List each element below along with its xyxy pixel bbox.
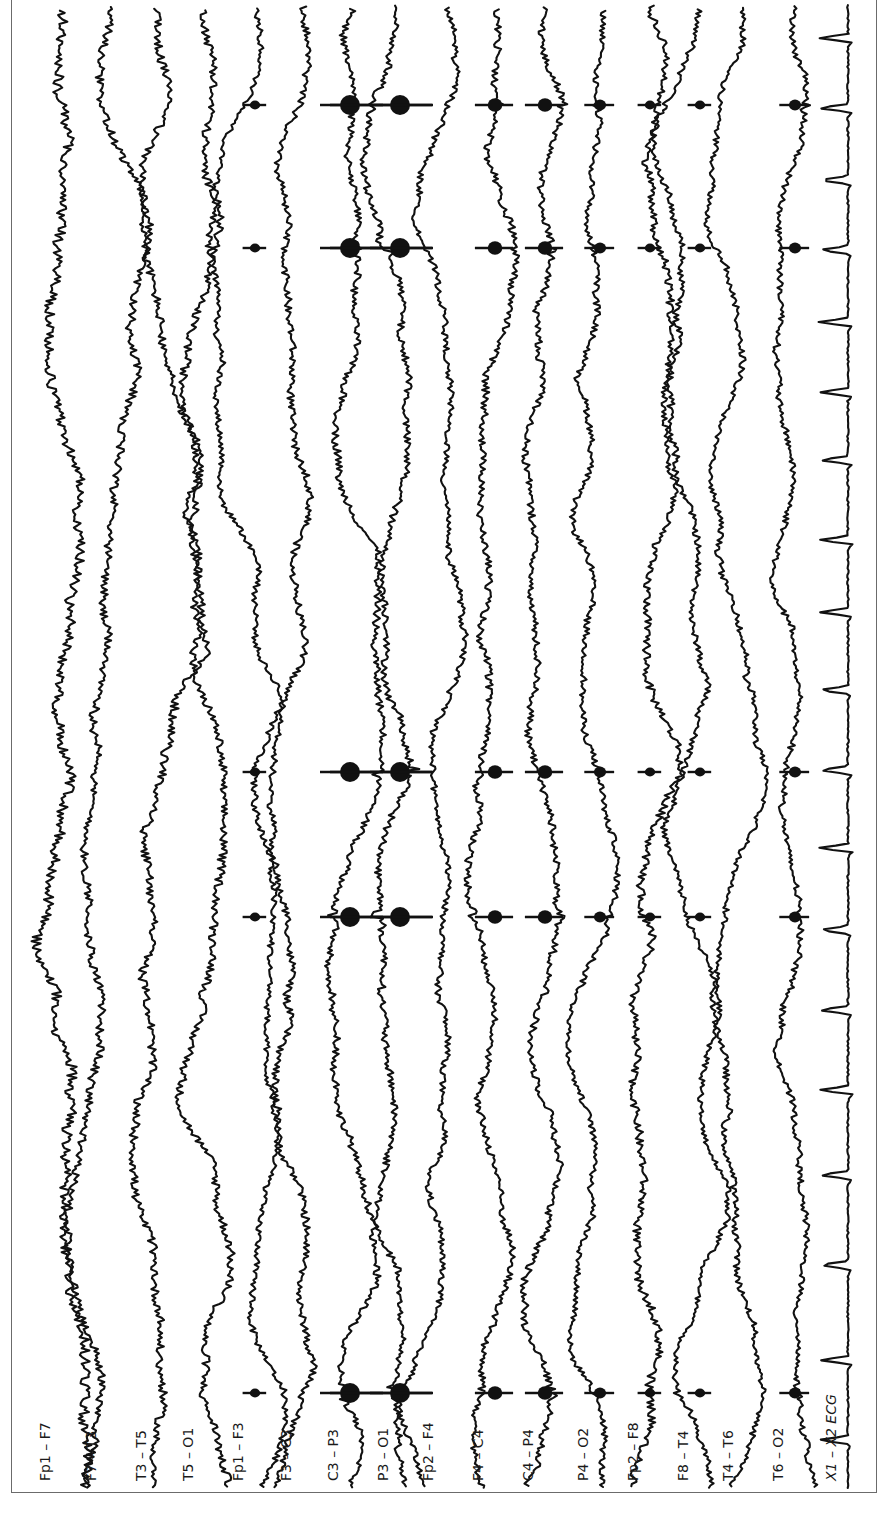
channel-label: Fp1 – F3 (230, 1422, 246, 1481)
eeg-trace (32, 11, 93, 1487)
spike-burst-core (695, 101, 705, 110)
spike-burst-core (695, 244, 705, 253)
spike-burst-core (789, 912, 801, 923)
eeg-channel: T4 – T6 (705, 8, 769, 1486)
eeg-channel: F8 – T4 (651, 9, 730, 1487)
spike-burst-core (789, 767, 801, 778)
eeg-channel: F4 – C4 (465, 9, 519, 1487)
spike-burst-core (789, 1388, 801, 1399)
spike-burst-core (695, 1389, 705, 1398)
channel-label: T4 – T6 (720, 1430, 736, 1482)
spike-burst-core (594, 912, 606, 923)
eeg-trace (465, 9, 519, 1487)
spike-burst-core (695, 913, 705, 922)
eeg-trace (705, 8, 769, 1486)
channel-label: P3 – O1 (375, 1428, 391, 1481)
spike-burst-core (250, 1389, 260, 1398)
spike-burst-core (695, 768, 705, 777)
spike-burst-core (645, 913, 655, 922)
eeg-trace (60, 7, 152, 1488)
spike-burst-core (789, 100, 801, 111)
eeg-channel: F7 – T3 (60, 7, 152, 1488)
spike-burst-core (250, 913, 260, 922)
spike-burst-core (594, 100, 606, 111)
spike-burst-core (594, 243, 606, 254)
spike-burst-core (645, 768, 655, 777)
eeg-trace (566, 11, 620, 1487)
spike-burst-core (488, 1386, 503, 1400)
channel-label: X1 – X2 ECG (823, 1394, 839, 1482)
channel-label: F3 – C3 (278, 1429, 294, 1481)
spike-burst-core (538, 910, 553, 924)
eeg-trace (251, 7, 316, 1488)
channel-label: Fp1 – F7 (37, 1422, 53, 1481)
eeg-trace (629, 6, 682, 1487)
eeg-trace (325, 9, 386, 1487)
channel-label: T3 – T5 (133, 1430, 149, 1482)
eeg-channel: P3 – O1 (361, 6, 433, 1487)
channel-label: F4 – C4 (470, 1429, 486, 1481)
eeg-channel: C3 – P3 (320, 9, 386, 1487)
eeg-traces: Fp1 – F7F7 – T3T3 – T5T5 – O1Fp1 – F3F3 … (0, 0, 893, 1540)
spike-burst-core (488, 241, 503, 255)
eeg-channel: X1 – X2 ECG (819, 5, 853, 1488)
channel-label: T5 – O1 (180, 1428, 196, 1482)
spike-burst-core (538, 98, 553, 112)
spike-burst-core (250, 101, 260, 110)
spike-burst-core (538, 1386, 553, 1400)
eeg-channel: T6 – O2 (770, 6, 817, 1487)
spike-burst-core (488, 98, 503, 112)
channel-label: P4 – O2 (575, 1428, 591, 1481)
channel-label: T6 – O2 (770, 1428, 786, 1482)
eeg-channel: P4 – O2 (566, 11, 620, 1487)
spike-burst-core (645, 244, 655, 253)
spike-burst-core (250, 244, 260, 253)
eeg-trace (651, 9, 730, 1487)
spike-burst-core (645, 1389, 655, 1398)
channel-label: C4 – P4 (520, 1429, 536, 1481)
eeg-channel: C4 – P4 (520, 7, 567, 1485)
spike-burst-core (538, 241, 553, 255)
spike-burst-core (538, 765, 553, 779)
eeg-channel: Fp1 – F7 (32, 11, 93, 1487)
eeg-trace (521, 7, 567, 1485)
eeg-channel: F3 – C3 (251, 7, 316, 1488)
spike-burst-core (645, 101, 655, 110)
channel-label: C3 – P3 (325, 1429, 341, 1481)
spike-burst-core (594, 1388, 606, 1399)
channel-label: Fp2 – F4 (420, 1422, 436, 1481)
eeg-channel: T5 – O1 (176, 10, 235, 1486)
eeg-trace (770, 6, 817, 1487)
eeg-figure: Fp1 – F7F7 – T3T3 – T5T5 – O1Fp1 – F3F3 … (0, 0, 893, 1540)
eeg-trace (176, 10, 235, 1486)
channel-label: F8 – T4 (675, 1431, 691, 1481)
eeg-trace (819, 5, 853, 1488)
eeg-channel: T3 – T5 (130, 9, 210, 1487)
spike-burst-core (488, 910, 503, 924)
eeg-trace (361, 6, 420, 1487)
eeg-channel: Fp2 – F8 (625, 6, 683, 1487)
spike-burst-core (594, 767, 606, 778)
spike-burst-core (789, 243, 801, 254)
eeg-trace (130, 9, 210, 1487)
spike-burst-core (488, 765, 503, 779)
channel-label: Fp2 – F8 (625, 1422, 641, 1481)
channel-label: F7 – T3 (83, 1431, 99, 1481)
